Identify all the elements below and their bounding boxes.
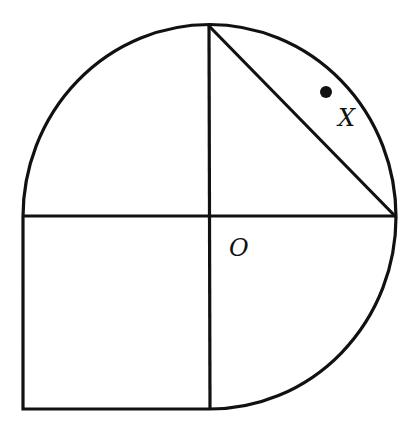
point-x-label: X <box>336 104 356 132</box>
center-o-label: O <box>229 234 249 262</box>
vertical-line <box>209 25 210 409</box>
chord <box>209 26 396 217</box>
point-x-dot <box>320 86 332 98</box>
geometry-figure: X O <box>0 0 412 426</box>
